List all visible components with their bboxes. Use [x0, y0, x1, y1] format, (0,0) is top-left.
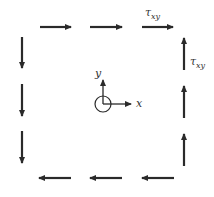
shear-stress-diagram: τxy τxy y x: [0, 0, 214, 197]
axis-x-label: x: [136, 97, 143, 110]
tau-label-top: τxy: [145, 6, 161, 21]
origin-axes: y x: [94, 67, 143, 112]
axis-y-label: y: [94, 67, 102, 80]
tau-label-right: τxy: [190, 55, 206, 70]
